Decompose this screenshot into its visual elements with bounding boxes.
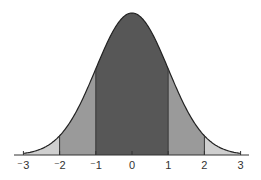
- tick-label: 3: [238, 159, 244, 171]
- tick-label: ⁻2: [54, 159, 66, 171]
- tick-label: 0: [129, 159, 135, 171]
- region-dark-2: [96, 13, 168, 155]
- tick-label: 2: [201, 159, 207, 171]
- shaded-regions: [23, 13, 240, 155]
- tick-label: 1: [165, 159, 171, 171]
- tick-label: ⁻3: [17, 159, 29, 171]
- tick-label: ⁻1: [90, 159, 102, 171]
- normal-distribution-chart: ⁻3⁻2⁻10123: [0, 0, 261, 180]
